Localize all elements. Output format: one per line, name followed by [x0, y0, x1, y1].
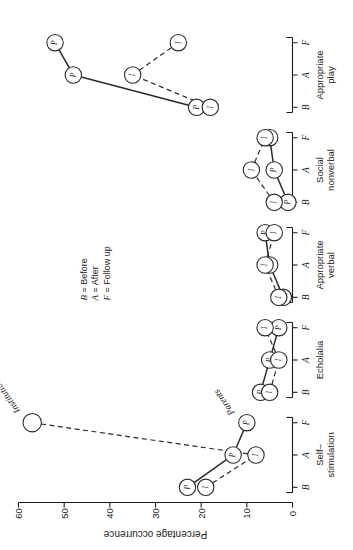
series-layer: PPPPPPPPPPPPPPPIIIIIIIIIIIIII: [23, 34, 296, 495]
phase-tick-label: B: [300, 389, 310, 395]
data-point-letter: I: [173, 40, 182, 44]
phase-tick-label: F: [300, 229, 310, 236]
series-segment-parents: [270, 145, 272, 161]
category-label: stimulation: [324, 432, 335, 477]
data-point-letter: I: [260, 325, 269, 329]
data-point-letter: I: [264, 390, 273, 394]
data-point-letter: P: [228, 452, 237, 458]
category-label: nonverbal: [324, 149, 335, 191]
phase-tick-label: A: [300, 261, 310, 268]
data-point-letter: I: [269, 200, 278, 204]
category-label: Self–: [313, 443, 324, 465]
value-axis-title: Percentage occurrence: [103, 529, 207, 540]
data-point-letter: I: [205, 105, 214, 109]
legend-key: F: [101, 294, 111, 301]
data-point-letter: P: [274, 324, 283, 330]
phase-tick-label: A: [300, 451, 310, 458]
value-axis-tick-label: 60: [12, 508, 23, 519]
series-segment-parents: [272, 272, 279, 289]
parents-label: Parents: [211, 387, 237, 418]
phase-tick-label: F: [300, 419, 310, 426]
value-axis-tick-label: 20: [195, 508, 206, 519]
chart-plot-area: PPPPPPPPPPPPPPPIIIIIIIIIIIIII 0102030405…: [0, 0, 353, 550]
series-segment-parents: [59, 49, 69, 67]
percentage-occurrence-line-chart: PPPPPPPPPPPPPPPIIIIIIIIIIIIII 0102030405…: [0, 0, 353, 550]
value-axis-tick-label: 0: [286, 510, 297, 515]
series-segment-parents: [262, 367, 267, 384]
series-segment-parents: [194, 459, 226, 482]
value-axis-tick-label: 10: [241, 508, 252, 519]
data-point-letter: I: [260, 135, 269, 139]
legend-text: = Follow up: [101, 246, 111, 295]
legend-text: = After: [90, 266, 100, 295]
value-axis-tick-label: 30: [149, 508, 160, 519]
data-point-letter: I: [274, 358, 283, 362]
data-point-letter: P: [283, 199, 292, 205]
category-label: Echolalia: [313, 340, 324, 379]
institution-label: Institution: [0, 377, 22, 416]
series-segment-institution: [254, 145, 261, 162]
data-point-letter: I: [127, 73, 136, 77]
phase-tick-label: A: [300, 166, 310, 173]
rotated-figure: PPPPPPPPPPPPPPPIIIIIIIIIIIIII 0102030405…: [0, 0, 353, 550]
category-label: Social: [313, 157, 324, 183]
value-axis-tick-label: 40: [104, 508, 115, 519]
data-point-letter: I: [200, 485, 209, 489]
phase-tick-label: F: [300, 39, 310, 46]
data-point-letter: I: [274, 295, 283, 299]
axes-layer: [18, 37, 297, 507]
annotations: InstitutionParents: [0, 377, 237, 418]
category-label: Appropriate: [313, 50, 324, 99]
phase-tick-label: A: [300, 71, 310, 78]
series-segment-institution: [139, 47, 171, 70]
data-point-letter: P: [269, 167, 278, 173]
legend-key: A: [90, 294, 100, 301]
legend-entry: B = Before: [78, 258, 88, 300]
legend-text: = Before: [78, 258, 88, 295]
phase-tick-label: A: [300, 356, 310, 363]
legend-entry: A = After: [90, 266, 100, 301]
category-label: verbal: [324, 252, 335, 278]
phase-tick-label: B: [300, 294, 310, 300]
data-point-letter: I: [260, 263, 269, 267]
series-segment-institution: [271, 367, 276, 384]
category-label: play: [324, 66, 335, 84]
data-point-letter: P: [242, 419, 251, 425]
data-point-letter: P: [50, 39, 59, 45]
phase-tick-label: B: [300, 484, 310, 490]
series-segment-institution: [40, 423, 248, 453]
series-segment-institution: [256, 176, 269, 195]
value-axis-tick-label: 50: [58, 508, 69, 519]
data-point-marker-institution: [23, 413, 41, 431]
phase-tick-label: F: [300, 134, 310, 141]
phase-tick-label: F: [300, 324, 310, 331]
data-point-letter: P: [68, 72, 77, 78]
data-point-letter: P: [191, 104, 200, 110]
data-point-letter: I: [251, 453, 260, 457]
category-label: Appropriate: [313, 240, 324, 289]
legend-entry: F = Follow up: [101, 246, 111, 301]
data-point-letter: I: [269, 230, 278, 234]
data-point-letter: P: [182, 484, 191, 490]
data-point-letter: I: [246, 168, 255, 172]
phase-tick-label: B: [300, 104, 310, 110]
legend: B = BeforeA = AfterF = Follow up: [78, 246, 111, 301]
phase-tick-label: B: [300, 199, 310, 205]
series-segment-parents: [236, 430, 243, 447]
series-segment-parents: [277, 177, 284, 194]
